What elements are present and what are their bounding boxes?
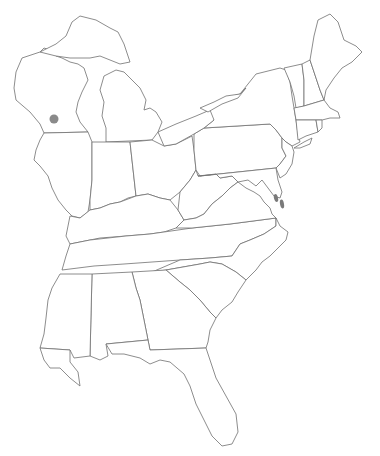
state-mississippi[interactable] <box>40 274 92 358</box>
state-michigan-lp[interactable] <box>100 70 162 142</box>
marker-wisconsin[interactable] <box>50 115 59 124</box>
marker-delaware-2[interactable] <box>279 199 285 209</box>
state-illinois[interactable] <box>34 132 92 218</box>
state-connecticut[interactable] <box>296 120 318 140</box>
state-florida[interactable] <box>106 340 238 446</box>
eastern-us-map <box>0 0 380 456</box>
